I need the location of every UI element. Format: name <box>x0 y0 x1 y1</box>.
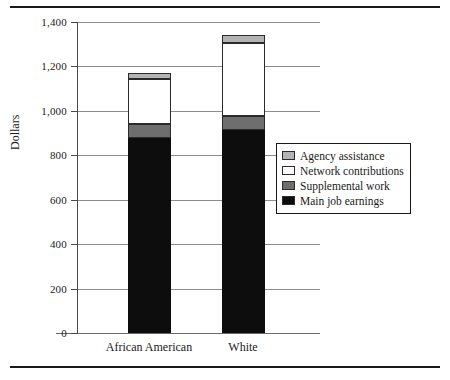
bar-segment-main-job-earnings[interactable] <box>222 130 265 333</box>
y-axis-tick <box>71 333 78 334</box>
x-axis-tick-label: African American <box>106 340 192 355</box>
x-axis-line <box>56 333 320 334</box>
bar-segment-main-job-earnings[interactable] <box>128 138 171 333</box>
y-axis-tick <box>71 200 78 201</box>
y-axis-tick-label: 800 <box>50 149 67 161</box>
figure: Dollars 02004006008001,0001,2001,400 Afr… <box>0 0 450 380</box>
y-axis-tick <box>71 22 78 23</box>
legend-label: Main job earnings <box>300 195 384 207</box>
y-axis-line <box>77 22 78 334</box>
legend-item[interactable]: Main job earnings <box>282 193 404 208</box>
y-axis-tick-label: 1,400 <box>41 16 67 28</box>
gridline <box>78 244 320 245</box>
bar-segment-agency-assistance[interactable] <box>222 35 265 43</box>
gridline <box>78 66 320 67</box>
legend-item[interactable]: Supplemental work <box>282 178 404 193</box>
bar-segment-network-contributions[interactable] <box>128 79 171 125</box>
y-axis-tick-label: 1,200 <box>41 60 67 72</box>
x-axis-tick-label: White <box>228 340 257 355</box>
y-axis-tick-label: 600 <box>50 194 67 206</box>
legend-label: Agency assistance <box>300 150 385 162</box>
bar-segment-supplemental-work[interactable] <box>128 124 171 137</box>
gridline <box>78 22 320 23</box>
top-rule <box>10 6 440 8</box>
bottom-rule <box>10 366 440 368</box>
legend-item[interactable]: Agency assistance <box>282 148 404 163</box>
y-axis-tick <box>71 244 78 245</box>
legend-swatch-icon <box>282 166 295 175</box>
y-axis-tick-label: 400 <box>50 238 67 250</box>
bar-segment-network-contributions[interactable] <box>222 43 265 116</box>
legend: Agency assistanceNetwork contributionsSu… <box>276 143 411 214</box>
y-axis-tick-label: 200 <box>50 283 67 295</box>
y-axis-tick <box>71 289 78 290</box>
legend-item[interactable]: Network contributions <box>282 163 404 178</box>
legend-swatch-icon <box>282 181 295 190</box>
legend-swatch-icon <box>282 196 295 205</box>
y-axis-tick-label: 0 <box>61 327 67 339</box>
legend-swatch-icon <box>282 151 295 160</box>
bar-white[interactable] <box>222 22 265 333</box>
legend-label: Network contributions <box>300 165 404 177</box>
bar-segment-agency-assistance[interactable] <box>128 73 171 79</box>
bar-african-american[interactable] <box>128 22 171 333</box>
y-axis-label: Dollars <box>8 115 23 150</box>
legend-label: Supplemental work <box>300 180 390 192</box>
y-axis-tick <box>71 155 78 156</box>
gridline <box>78 289 320 290</box>
y-axis-tick <box>71 111 78 112</box>
gridline <box>78 111 320 112</box>
y-axis-tick <box>71 66 78 67</box>
y-axis-tick-label: 1,000 <box>41 105 67 117</box>
bar-segment-supplemental-work[interactable] <box>222 116 265 129</box>
